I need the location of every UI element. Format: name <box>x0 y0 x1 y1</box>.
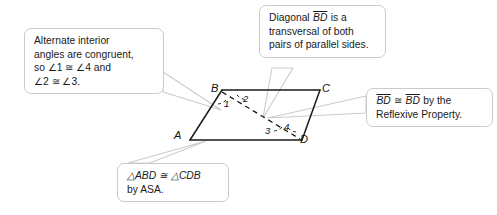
geometry-figure-canvas: A B C D 1 2 3 4 Alternate interior angle… <box>0 0 497 215</box>
angle-label-1: 1 <box>224 98 229 109</box>
segment-notation-bd: BD <box>405 95 420 106</box>
segment-notation-bd: BD <box>313 12 328 23</box>
callout-line: Alternate interior <box>34 34 155 48</box>
callout-text: by the <box>420 95 451 106</box>
angle-label-3: 3 <box>265 125 270 136</box>
callout-text: Diagonal <box>269 12 313 23</box>
angle-label-2: 2 <box>243 93 248 104</box>
callout-line: BD ≅ BD by the <box>376 94 484 108</box>
callout-alternate-interior-angles: Alternate interior angles are congruent,… <box>24 28 164 94</box>
vertex-label-c: C <box>322 82 330 94</box>
callout-text: is a <box>328 12 347 23</box>
vertex-label-b: B <box>211 82 218 94</box>
callout-line: so ∠1 ≅ ∠4 and <box>34 61 155 75</box>
callout-triangle-congruence-asa: △ABD ≅ △CDB by ASA. <box>117 163 229 202</box>
callout-line: transversal of both <box>269 25 377 39</box>
callout-line: △ABD ≅ △CDB <box>127 169 220 183</box>
callout-diagonal-transversal: Diagonal BD is a transversal of both pai… <box>259 5 386 58</box>
congruence-symbol: ≅ <box>391 95 405 106</box>
callout-line: by ASA. <box>127 183 220 197</box>
angle-label-4: 4 <box>284 121 289 132</box>
segment-notation-bd: BD <box>376 95 391 106</box>
callout-line: pairs of parallel sides. <box>269 38 377 52</box>
callout-tail-diagonal <box>263 68 293 118</box>
callout-reflexive-property: BD ≅ BD by the Reflexive Property. <box>366 88 493 127</box>
callout-line: ∠2 ≅ ∠3. <box>34 75 155 89</box>
callout-tail-asa <box>128 141 206 163</box>
callout-line: Reflexive Property. <box>376 108 484 122</box>
vertex-label-d: D <box>300 133 308 145</box>
callout-line: Diagonal BD is a <box>269 11 377 25</box>
callout-line: angles are congruent, <box>34 48 155 62</box>
vertex-label-a: A <box>174 129 181 141</box>
